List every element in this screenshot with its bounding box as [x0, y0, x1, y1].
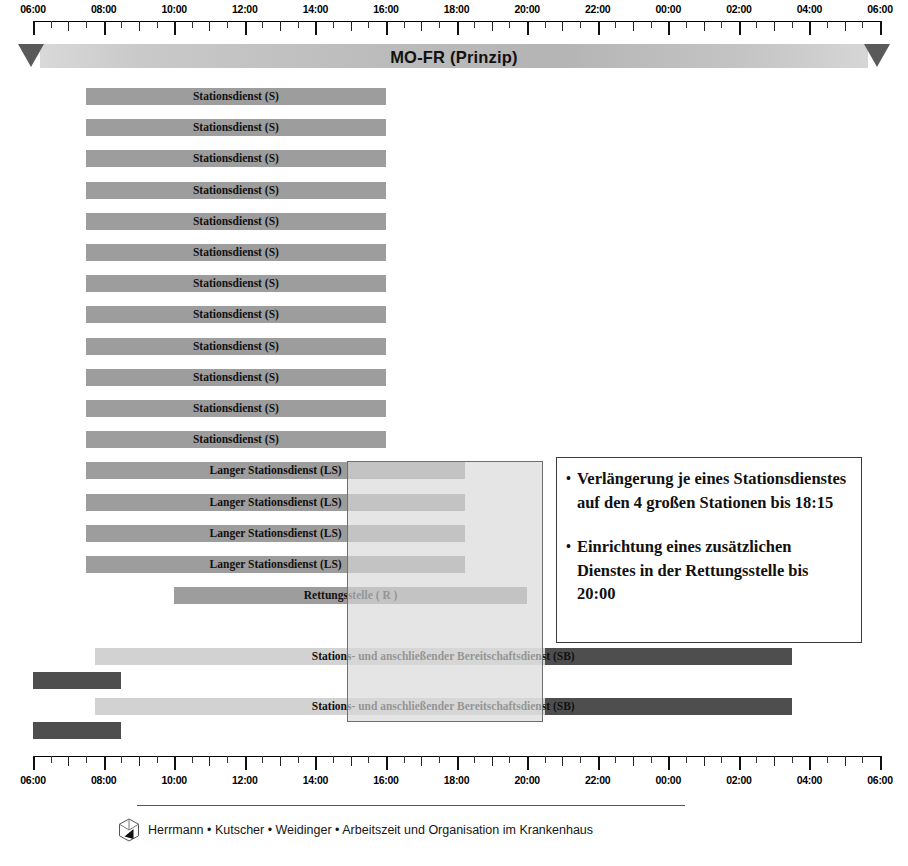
- axis-tick-label: 04:00: [797, 774, 822, 786]
- gantt-bar[interactable]: Stationsdienst (S): [86, 244, 386, 261]
- gantt-bar[interactable]: Stationsdienst (S): [86, 213, 386, 230]
- gantt-bar-segment: [33, 722, 121, 739]
- axis-tick: [774, 756, 775, 766]
- gantt-bar[interactable]: [33, 672, 121, 689]
- gantt-bar-label: Stationsdienst (S): [86, 369, 386, 386]
- axis-tick: [351, 756, 352, 766]
- axis-tick: [756, 756, 757, 763]
- axis-tick: [421, 756, 422, 766]
- bullet-icon: •: [566, 467, 571, 491]
- axis-tick: [809, 756, 811, 770]
- axis-tick: [474, 756, 475, 763]
- axis-tick: [721, 756, 722, 763]
- gantt-bar[interactable]: Stationsdienst (S): [86, 182, 386, 199]
- gantt-bar-label: Stationsdienst (S): [86, 88, 386, 105]
- footer-divider: [137, 805, 685, 806]
- callout-item-text: Einrichtung eines zusätzlichen Dienstes …: [577, 535, 851, 606]
- axis-tick: [862, 756, 863, 763]
- gantt-bar-label: Stationsdienst (S): [86, 431, 386, 448]
- gantt-bar-label: Stationsdienst (S): [86, 400, 386, 417]
- axis-tick-label: 08:00: [91, 774, 116, 786]
- axis-tick: [368, 756, 369, 763]
- axis-tick: [792, 756, 793, 763]
- axis-tick: [386, 756, 388, 770]
- axis-tick: [598, 756, 600, 770]
- axis-tick: [633, 756, 634, 766]
- gantt-bar[interactable]: Stationsdienst (S): [86, 431, 386, 448]
- axis-tick-label: 06:00: [20, 774, 45, 786]
- axis-tick-label: 02:00: [726, 774, 751, 786]
- axis-tick: [651, 756, 652, 763]
- axis-tick: [580, 756, 581, 763]
- footer-credit-text: Herrmann • Kutscher • Weidinger • Arbeit…: [148, 820, 593, 840]
- callout-item-text: Verlängerung je eines Stationsdienstes a…: [577, 467, 851, 514]
- axis-tick: [192, 756, 193, 763]
- axis-tick: [104, 756, 106, 770]
- axis-tick-label: 18:00: [444, 774, 469, 786]
- gantt-bar[interactable]: Stationsdienst (S): [86, 306, 386, 323]
- axis-tick: [262, 756, 263, 763]
- axis-tick: [686, 756, 687, 763]
- axis-tick: [527, 756, 529, 770]
- axis-tick: [51, 756, 52, 763]
- axis-tick: [404, 756, 405, 763]
- axis-tick-label: 16:00: [373, 774, 398, 786]
- callout-item: • Verlängerung je eines Stationsdienstes…: [566, 467, 851, 514]
- axis-tick: [545, 756, 546, 763]
- axis-tick: [280, 756, 281, 766]
- gantt-bar[interactable]: Stationsdienst (S): [86, 150, 386, 167]
- axis-tick: [227, 756, 228, 763]
- gantt-bar-label: Stationsdienst (S): [86, 213, 386, 230]
- axis-tick: [157, 756, 158, 763]
- gantt-bar[interactable]: Stationsdienst (S): [86, 338, 386, 355]
- gantt-bar-label: Stationsdienst (S): [86, 306, 386, 323]
- gantt-bar-label: Stationsdienst (S): [86, 338, 386, 355]
- callout-item: • Einrichtung eines zusätzlichen Dienste…: [566, 535, 851, 606]
- axis-tick-label: 22:00: [585, 774, 610, 786]
- axis-tick: [298, 756, 299, 763]
- axis-tick: [174, 756, 176, 770]
- axis-tick-label: 20:00: [514, 774, 539, 786]
- gantt-bar[interactable]: Stationsdienst (S): [86, 400, 386, 417]
- gantt-bar[interactable]: Stationsdienst (S): [86, 88, 386, 105]
- bottom-time-axis: 06:0008:0010:0012:0014:0016:0018:0020:00…: [0, 748, 908, 792]
- highlight-selection-overlay[interactable]: [347, 461, 543, 722]
- axis-tick-label: 06:00: [867, 774, 892, 786]
- axis-tick: [562, 756, 563, 766]
- axis-tick: [245, 756, 247, 770]
- gantt-bar[interactable]: Stationsdienst (S): [86, 275, 386, 292]
- gantt-bar[interactable]: [33, 722, 121, 739]
- axis-tick-label: 12:00: [232, 774, 257, 786]
- footer: Herrmann • Kutscher • Weidinger • Arbeit…: [0, 800, 908, 866]
- gantt-bar-label: Stationsdienst (S): [86, 244, 386, 261]
- axis-tick: [86, 756, 87, 763]
- gantt-bar-label: Stationsdienst (S): [86, 275, 386, 292]
- axis-tick: [845, 756, 846, 766]
- axis-tick-label: 00:00: [656, 774, 681, 786]
- gantt-bar-label: Stationsdienst (S): [86, 182, 386, 199]
- axis-tick: [439, 756, 440, 763]
- axis-tick: [509, 756, 510, 763]
- axis-tick: [121, 756, 122, 763]
- cube-play-logo-icon: [118, 818, 140, 842]
- axis-tick: [315, 756, 317, 770]
- axis-tick: [615, 756, 616, 763]
- axis-tick-label: 14:00: [303, 774, 328, 786]
- axis-tick: [668, 756, 670, 770]
- axis-tick: [457, 756, 459, 770]
- axis-tick: [704, 756, 705, 766]
- axis-tick: [880, 756, 882, 770]
- gantt-bar-segment: [33, 672, 121, 689]
- axis-tick: [209, 756, 210, 766]
- gantt-bar[interactable]: Stationsdienst (S): [86, 369, 386, 386]
- axis-tick: [492, 756, 493, 766]
- axis-tick-label: 10:00: [161, 774, 186, 786]
- gantt-bar[interactable]: Stationsdienst (S): [86, 119, 386, 136]
- axis-tick: [139, 756, 140, 766]
- axis-tick: [68, 756, 69, 766]
- gantt-bar-label: Stationsdienst (S): [86, 150, 386, 167]
- axis-tick: [739, 756, 741, 770]
- bullet-icon: •: [566, 535, 571, 559]
- gantt-bar-label: Stationsdienst (S): [86, 119, 386, 136]
- axis-tick: [33, 756, 35, 770]
